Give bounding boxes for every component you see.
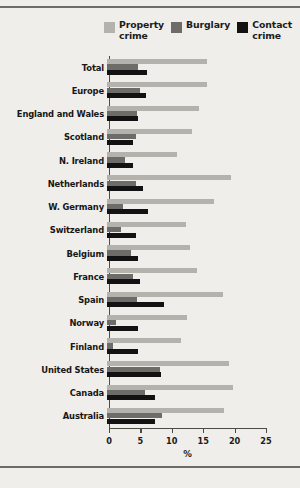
category-label: Finland	[8, 342, 107, 352]
category-label: France	[8, 272, 107, 282]
bar-property-crime	[107, 338, 181, 343]
bottom-rule	[0, 466, 300, 468]
bar-group	[107, 103, 266, 126]
bar-burglary	[107, 181, 136, 186]
x-axis-tick-label: 10	[166, 436, 177, 446]
bar-burglary	[107, 343, 113, 348]
bar-burglary	[107, 227, 121, 232]
legend-label: Burglary	[186, 20, 230, 31]
category-label: England and Wales	[8, 109, 107, 119]
bar-burglary	[107, 297, 137, 302]
category-label: Norway	[8, 318, 107, 328]
bar-contact-crime	[107, 419, 155, 424]
legend-swatch-icon	[104, 22, 115, 33]
bar-group	[107, 79, 266, 102]
chart-row: France	[8, 265, 266, 288]
category-label: Scotland	[8, 132, 107, 142]
x-axis-tick-label: 15	[197, 436, 208, 446]
chart-row: England and Wales	[8, 103, 266, 126]
bar-burglary	[107, 274, 133, 279]
legend-label: Contactcrime	[252, 20, 292, 41]
bar-rows: TotalEuropeEngland and WalesScotlandN. I…	[8, 56, 266, 428]
bar-burglary	[107, 204, 123, 209]
chart-row: Switzerland	[8, 219, 266, 242]
bar-group	[107, 289, 266, 312]
bar-contact-crime	[107, 279, 140, 284]
x-axis-tick	[235, 428, 236, 433]
chart-row: United States	[8, 358, 266, 381]
category-label: Europe	[8, 86, 107, 96]
category-label: United States	[8, 365, 107, 375]
legend-item[interactable]: Contactcrime	[237, 20, 292, 41]
category-label: Total	[8, 63, 107, 73]
bar-contact-crime	[107, 70, 147, 75]
x-axis-title: %	[109, 449, 266, 459]
chart-row: Canada	[8, 382, 266, 405]
bar-group	[107, 219, 266, 242]
bar-contact-crime	[107, 326, 138, 331]
bar-group	[107, 172, 266, 195]
bar-contact-crime	[107, 256, 138, 261]
chart-row: Norway	[8, 312, 266, 335]
bar-burglary	[107, 250, 131, 255]
bar-contact-crime	[107, 372, 161, 377]
bar-group	[107, 56, 266, 79]
chart-row: Europe	[8, 79, 266, 102]
bar-contact-crime	[107, 209, 148, 214]
legend-swatch-icon	[171, 22, 182, 33]
plot-container: PropertycrimeBurglaryContactcrime TotalE…	[8, 12, 292, 462]
chart-row: Spain	[8, 289, 266, 312]
bar-contact-crime	[107, 140, 133, 145]
legend-swatch-icon	[237, 22, 248, 33]
bar-group	[107, 382, 266, 405]
category-label: N. Ireland	[8, 156, 107, 166]
bar-contact-crime	[107, 186, 143, 191]
category-label: Belgium	[8, 249, 107, 259]
bar-group	[107, 196, 266, 219]
chart-row: Finland	[8, 335, 266, 358]
bar-contact-crime	[107, 163, 133, 168]
x-axis-tick	[172, 428, 173, 433]
legend-item[interactable]: Propertycrime	[104, 20, 164, 41]
bar-burglary	[107, 367, 160, 372]
x-axis-tick	[203, 428, 204, 433]
x-axis-tick	[109, 428, 110, 433]
chart-row: W. Germany	[8, 196, 266, 219]
bar-burglary	[107, 64, 138, 69]
bar-group	[107, 335, 266, 358]
x-axis-tick	[266, 428, 267, 433]
chart-figure: PropertycrimeBurglaryContactcrime TotalE…	[0, 0, 300, 488]
bar-property-crime	[107, 315, 187, 320]
bar-group	[107, 149, 266, 172]
x-axis-tick-label: 25	[260, 436, 271, 446]
bar-burglary	[107, 413, 162, 418]
bar-group	[107, 312, 266, 335]
bar-burglary	[107, 390, 145, 395]
x-axis-line	[109, 428, 266, 429]
chart-row: Scotland	[8, 126, 266, 149]
legend-item[interactable]: Burglary	[171, 20, 230, 33]
bar-contact-crime	[107, 116, 138, 121]
bar-burglary	[107, 134, 136, 139]
category-label: Canada	[8, 388, 107, 398]
chart-row: Total	[8, 56, 266, 79]
chart-legend: PropertycrimeBurglaryContactcrime	[104, 20, 290, 50]
chart-row: Netherlands	[8, 172, 266, 195]
legend-label: Propertycrime	[119, 20, 164, 41]
x-axis-tick-label: 20	[229, 436, 240, 446]
x-axis-tick-label: 5	[138, 436, 144, 446]
bar-group	[107, 126, 266, 149]
x-axis-tick-label: 0	[106, 436, 112, 446]
top-rule	[0, 6, 300, 8]
bar-group	[107, 265, 266, 288]
category-label: Australia	[8, 411, 107, 421]
chart-row: N. Ireland	[8, 149, 266, 172]
bar-group	[107, 242, 266, 265]
bar-group	[107, 358, 266, 381]
x-axis-tick	[140, 428, 141, 433]
bar-contact-crime	[107, 233, 136, 238]
bar-burglary	[107, 88, 140, 93]
bar-contact-crime	[107, 349, 138, 354]
category-label: Netherlands	[8, 179, 107, 189]
bar-contact-crime	[107, 93, 146, 98]
